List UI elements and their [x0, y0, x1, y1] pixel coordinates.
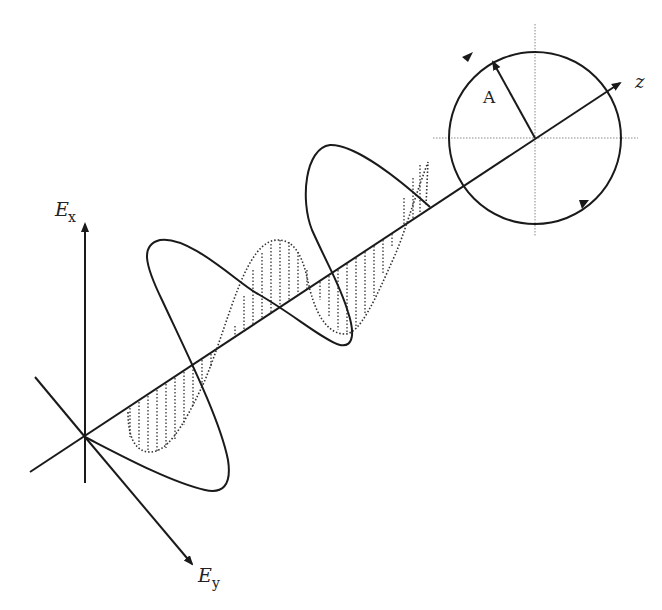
ey-axis-label: E [197, 564, 212, 586]
ex-axis-subscript: x [68, 209, 76, 225]
ex-axis-label: E [54, 198, 69, 220]
amplitude-label: A [482, 87, 496, 107]
amplitude-vector [493, 62, 535, 138]
polarization-diagram: A z E x E y [0, 0, 662, 610]
ey-axis-subscript: y [211, 575, 220, 591]
circle-guides [433, 24, 638, 236]
z-axis [30, 83, 620, 472]
ex-wave-hatching [130, 165, 420, 451]
rotation-arrow-top-icon [462, 52, 473, 62]
z-axis-label: z [634, 71, 645, 92]
ey-wave [85, 145, 430, 491]
ey-axis-back [35, 377, 85, 437]
ey-axis [85, 437, 192, 564]
